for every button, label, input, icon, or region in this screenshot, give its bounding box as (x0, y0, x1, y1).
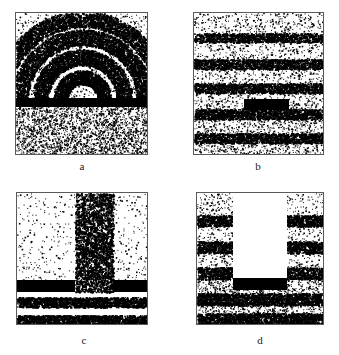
panel-d-frame (196, 192, 324, 325)
panel-b-stipple (194, 13, 323, 154)
panel-b (193, 12, 324, 155)
panel-d (196, 192, 324, 325)
panel-c-stipple (17, 193, 147, 324)
panel-b-frame (193, 12, 324, 155)
panel-a-frame (15, 12, 148, 155)
panel-a-caption: a (62, 160, 102, 172)
panel-d-stipple (197, 193, 323, 324)
figure-panel-grid: a b c d (0, 0, 339, 355)
panel-c-caption: c (64, 334, 104, 346)
panel-c (16, 192, 148, 325)
panel-a-stipple (16, 13, 147, 154)
panel-b-caption: b (238, 160, 278, 172)
panel-d-caption: d (240, 334, 280, 346)
panel-c-frame (16, 192, 148, 325)
panel-a (15, 12, 148, 155)
